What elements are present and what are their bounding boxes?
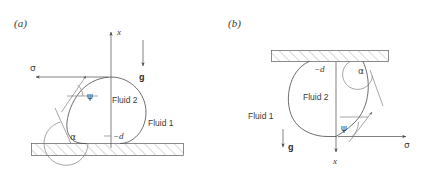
psi-tangent-arrow-b [349, 112, 372, 142]
panel-b-label: (b) [228, 17, 241, 30]
fluid-1-label-b: Fluid 1 [248, 111, 274, 121]
axis-x-label-a: x [116, 27, 121, 37]
substrate-slab-b [272, 51, 389, 62]
substrate-slab-a [32, 144, 184, 156]
alpha-label-b: α [358, 66, 364, 76]
axis-x-label-b: x [332, 156, 337, 166]
sigma-label-a: σ [30, 63, 36, 73]
figure-container: (a) x g σ ψ α −d Fluid 2 Fluid 1 [0, 0, 427, 170]
fluid-2-label-b: Fluid 2 [303, 92, 329, 102]
alpha-tangent-line-b [370, 70, 383, 106]
psi-tangent-arrow-a [62, 76, 87, 112]
gravity-label-a: g [139, 72, 145, 82]
panel-a-label: (a) [14, 17, 27, 30]
alpha-label-a: α [70, 132, 76, 142]
fluid-1-label-a: Fluid 1 [148, 118, 174, 128]
panel-a: (a) x g σ ψ α −d Fluid 2 Fluid 1 [14, 17, 184, 165]
depth-label-b: −d [314, 64, 325, 74]
gravity-label-b: g [288, 142, 294, 152]
depth-label-a: −d [113, 131, 124, 141]
panel-b: (b) x g σ ψ α −d Fluid 2 Fluid 1 [228, 17, 410, 166]
psi-label-b: ψ [341, 123, 347, 133]
psi-label-a: ψ [87, 91, 93, 101]
fluid-2-label-a: Fluid 2 [112, 95, 138, 105]
sigma-label-b: σ [404, 140, 410, 150]
